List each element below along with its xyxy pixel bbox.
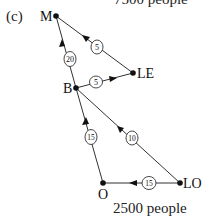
svg-text:15: 15 (87, 133, 95, 142)
network-diagram: 20 5 5 15 10 15 M LE B (0, 0, 203, 224)
node-M (53, 13, 59, 19)
arrow-icon (59, 39, 65, 47)
weight-B-LE: 5 (90, 76, 103, 88)
node-label-B: B (63, 81, 72, 96)
svg-text:15: 15 (145, 179, 153, 188)
node-LO (177, 180, 183, 186)
node-B (73, 85, 79, 91)
edge-B-LE (76, 73, 133, 88)
arrow-icon (109, 76, 117, 82)
node-label-O: O (98, 187, 108, 202)
arrow-icon (82, 35, 90, 42)
svg-text:20: 20 (66, 55, 74, 64)
node-label-LE: LE (137, 66, 154, 81)
weight-LO-O: 15 (142, 177, 156, 190)
svg-text:5: 5 (94, 78, 98, 87)
arrow-icon (129, 180, 137, 186)
weight-O-B: 15 (85, 130, 97, 145)
weight-LO-B: 10 (126, 131, 138, 145)
arrow-icon (82, 117, 89, 125)
weight-LE-M: 5 (91, 40, 103, 54)
svg-text:5: 5 (95, 43, 99, 52)
node-label-M: M (40, 9, 53, 24)
arrow-icon (117, 126, 124, 133)
weight-labels: 20 5 5 15 10 15 (64, 40, 156, 190)
node-O (100, 180, 106, 186)
weight-B-M: 20 (64, 52, 76, 67)
svg-text:10: 10 (128, 134, 136, 143)
node-label-LO: LO (183, 176, 202, 191)
node-LE (130, 70, 136, 76)
